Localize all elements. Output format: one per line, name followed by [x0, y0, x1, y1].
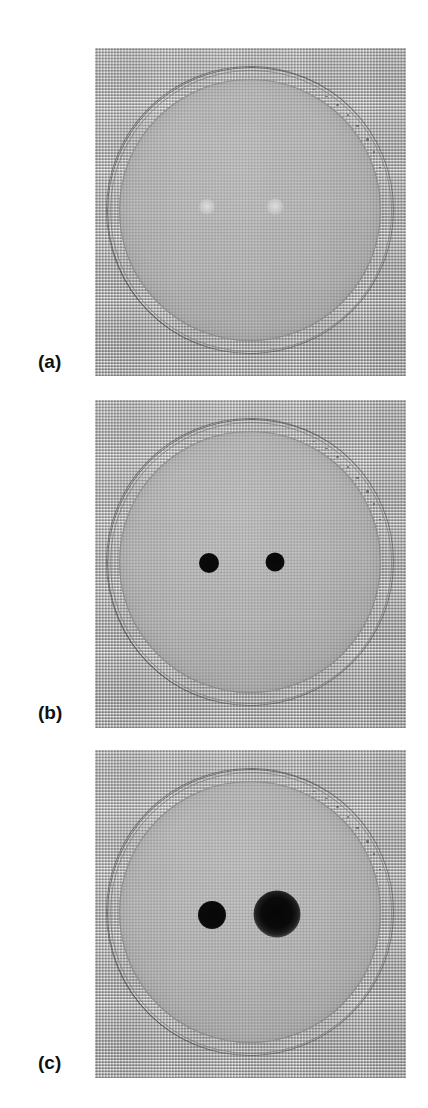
- colony-spot-c-right: [254, 891, 301, 938]
- panel-a-photograph: [95, 48, 406, 376]
- dish-lid-speck: [313, 791, 315, 792]
- colony-spot-c-left: [198, 901, 226, 929]
- dish-lid-speck: [373, 151, 375, 152]
- panel-label-c: (c): [38, 1053, 61, 1072]
- dish-lid-speck: [373, 853, 375, 854]
- dish-lid-speck: [366, 490, 369, 492]
- petri-dish-b: [107, 419, 393, 705]
- colony-spot-b-right: [266, 553, 285, 572]
- colony-spot-b-left: [199, 553, 219, 573]
- panel-label-a: (a): [38, 352, 61, 371]
- dish-lid-speck: [347, 114, 349, 115]
- dish-lid-speck: [373, 503, 375, 504]
- figure-root: (a) (b) (c): [0, 0, 428, 1108]
- dish-lid-speck: [347, 466, 349, 467]
- petri-dish-c: [107, 769, 393, 1055]
- colony-spot-a-right: [267, 199, 284, 216]
- colony-spot-a-left: [199, 199, 215, 215]
- dish-lid-speck: [356, 125, 358, 127]
- dish-rim-specular-b: [107, 419, 393, 705]
- dish-lid-speck: [356, 827, 358, 829]
- panel-label-b: (b): [38, 703, 62, 722]
- petri-dish-a: [107, 67, 393, 353]
- dish-lid-speck: [313, 441, 315, 442]
- dish-lid-speck: [356, 477, 358, 479]
- dish-lid-speck: [366, 840, 369, 842]
- dish-lid-speck: [347, 816, 349, 817]
- panel-c-photograph: [95, 750, 406, 1078]
- dish-rim-specular-a: [107, 67, 393, 353]
- panel-b-photograph: [95, 400, 406, 728]
- dish-lid-speck: [366, 138, 369, 140]
- dish-rim-specular-c: [107, 769, 393, 1055]
- dish-lid-speck: [313, 89, 315, 90]
